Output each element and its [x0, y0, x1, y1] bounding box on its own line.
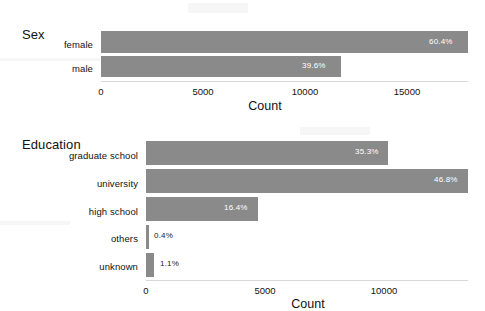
- sex-chart-panel: Sex female 60.4% male 39.6% 0 5000 10000…: [0, 0, 485, 120]
- x-axis-line: [101, 81, 468, 82]
- x-tick-label: 0: [126, 285, 166, 296]
- bar-value-graduate-school: 35.3%: [355, 147, 379, 156]
- category-label-others: others: [0, 233, 138, 244]
- bar-value-high-school: 16.4%: [224, 203, 248, 212]
- x-tick-label: 15000: [387, 86, 427, 97]
- x-tick-label: 5000: [245, 285, 285, 296]
- bar-others: [146, 225, 149, 249]
- scan-artifact: [0, 221, 70, 225]
- bar-university: [146, 169, 468, 193]
- bar-value-male: 39.6%: [302, 61, 326, 70]
- category-label-male: male: [0, 63, 93, 74]
- scan-artifact: [188, 3, 248, 13]
- category-label-graduate-school: graduate school: [0, 150, 138, 161]
- category-label-university: university: [0, 178, 138, 189]
- x-tick-label: 0: [81, 86, 121, 97]
- x-axis-line: [146, 280, 468, 281]
- bar-value-university: 46.8%: [434, 175, 458, 184]
- bar-graduate-school: [146, 141, 388, 165]
- x-tick-label: 10000: [364, 285, 404, 296]
- category-label-female: female: [0, 39, 93, 50]
- education-chart-panel: Education graduate school 35.3% universi…: [0, 125, 485, 298]
- scan-artifact: [0, 58, 100, 61]
- bar-value-unknown: 1.1%: [160, 259, 179, 268]
- bar-value-female: 60.4%: [429, 37, 453, 46]
- category-label-high-school: high school: [0, 206, 138, 217]
- bar-unknown: [146, 253, 154, 277]
- x-tick-label: 10000: [285, 86, 325, 97]
- scan-artifact: [300, 127, 370, 135]
- x-axis-title: Count: [225, 99, 305, 113]
- x-tick-label: 5000: [183, 86, 223, 97]
- x-axis-title: Count: [268, 297, 348, 311]
- bar-value-others: 0.4%: [154, 231, 173, 240]
- bar-female: [101, 31, 468, 53]
- category-label-unknown: unknown: [0, 261, 138, 272]
